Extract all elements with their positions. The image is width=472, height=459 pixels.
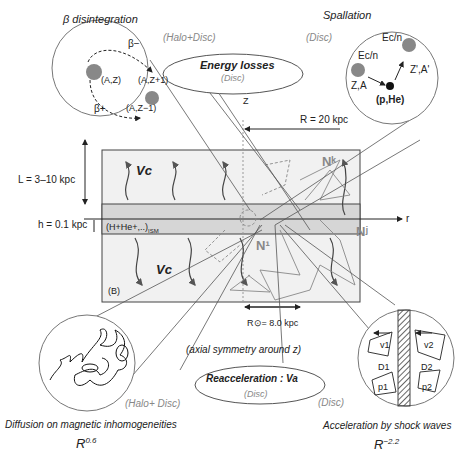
beta-title: β disintegration xyxy=(63,13,138,25)
energy-losses-title: Energy losses xyxy=(200,59,275,71)
convection-upper: Vc xyxy=(136,163,152,178)
shock-p1: p1 xyxy=(378,382,388,392)
node-az-minus: (A,Z−1) xyxy=(126,103,156,113)
nucleus-n1: N¹ xyxy=(256,238,270,253)
diffusion-law: R0.6 xyxy=(76,436,97,451)
spallation-za: Z,A xyxy=(351,80,367,91)
shock-d1: D1 xyxy=(378,362,390,372)
diffusion-title: Diffusion on magnetic inhomogeneities xyxy=(5,419,177,430)
spallation-title: Spallation xyxy=(323,9,371,21)
radius-label: R = 20 kpc xyxy=(300,114,348,125)
spallation-circle xyxy=(346,32,438,124)
spallation-za-prime: Z',A' xyxy=(410,64,429,75)
shock-law: R−2.2 xyxy=(374,437,399,452)
diffusion-region: (Halo+ Disc) xyxy=(125,398,180,409)
halo-height-label: L = 3–10 kpc xyxy=(18,174,75,185)
shock-v1: v1 xyxy=(380,340,390,350)
spallation-region: (Disc) xyxy=(306,32,332,43)
symmetry-note: (axial symmetry around z) xyxy=(186,344,301,355)
shock-title: Acceleration by shock waves xyxy=(323,420,451,431)
shock-d2: D2 xyxy=(421,362,433,372)
spallation-energy-2: Ec/n xyxy=(358,50,378,61)
beta-plus-label: β+ xyxy=(94,103,106,114)
diffusion-circle xyxy=(39,315,135,411)
beta-region: (Halo+Disc) xyxy=(163,32,216,43)
sun-radius-label: R⊙= 8.0 kpc xyxy=(247,318,298,328)
ism-label: (H+He+,..)ISM xyxy=(106,222,159,234)
r-axis-label: r xyxy=(406,213,409,224)
disc-height-label: h = 0.1 kpc xyxy=(38,219,87,230)
node-az: (A,Z) xyxy=(101,75,121,85)
convection-lower: Vc xyxy=(156,262,172,277)
nucleus-nj: Nʲ xyxy=(356,224,368,239)
beta-minus-label: β− xyxy=(128,38,140,49)
shock-region: (Disc) xyxy=(318,397,344,408)
reacceleration-title: Reacceleration : Va xyxy=(206,373,298,384)
node-az-plus: (A,Z+1) xyxy=(138,75,168,85)
nucleus-nk: Nᵏ xyxy=(322,154,336,169)
energy-losses-region: (Disc) xyxy=(221,73,245,83)
reacceleration-region: (Disc) xyxy=(244,389,268,399)
shock-p2: p2 xyxy=(422,382,432,392)
shock-v2: v2 xyxy=(424,340,434,350)
spallation-p-he: (p,He) xyxy=(376,94,404,105)
spallation-energy-1: Ec/n xyxy=(382,32,402,43)
magnetic-field-label: (B) xyxy=(108,286,120,296)
z-axis-label: Z xyxy=(243,96,249,106)
